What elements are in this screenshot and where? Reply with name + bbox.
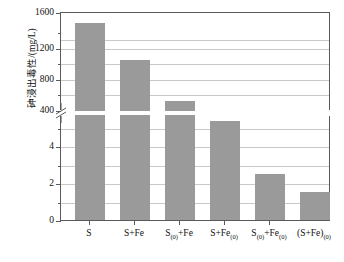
bar-lower-S-Fe0 — [210, 121, 240, 221]
yticklabel-400: 400 — [40, 106, 54, 116]
xlabel-S0-Fe0: S(0)+Fe(0) — [251, 228, 286, 240]
xlabel-S0-Fe0-sub2: (0) — [279, 233, 287, 240]
xlabel-S-Fe0-sub: (0) — [230, 233, 238, 240]
xlabel-S0-Fe0-mid: +Fe — [264, 228, 279, 238]
bar-lower-S — [75, 115, 105, 220]
xlabel-S-Fe-0: (S+Fe)(0) — [297, 228, 331, 240]
bar-lower-S-Fe-0 — [300, 192, 330, 220]
xtick-5 — [269, 221, 270, 225]
yticklabel-1600: 1600 — [35, 8, 54, 18]
yticklabel-800: 800 — [40, 75, 54, 85]
chart-figure: 砷浸出毒性/(mg/L) 1600 1200 800 400 — [0, 0, 344, 262]
ytick-minor-1000 — [58, 64, 61, 65]
yticklabel-0: 0 — [49, 216, 54, 226]
xlabel-S-Fe: S+Fe — [124, 228, 144, 238]
xlabel-S-Fe-0-base: (S+Fe) — [297, 228, 323, 238]
xtick-1 — [89, 221, 90, 225]
ytick-0 — [56, 221, 61, 222]
xtick-4 — [224, 221, 225, 225]
ytick-minor-1 — [58, 203, 61, 204]
plot-panel-lower: 4 2 0 — [60, 116, 330, 221]
ytick-2 — [56, 184, 61, 185]
xtick-3 — [179, 221, 180, 225]
plot-panel-upper: 1600 1200 800 400 — [60, 12, 330, 110]
bar-lower-S0-Fe — [165, 115, 195, 220]
xlabel-S-Fe0-base: S+Fe — [210, 228, 230, 238]
ytick-minor-600 — [58, 95, 61, 96]
xlabel-S0-Fe-sub: (0) — [170, 233, 178, 240]
bar-lower-S0-Fe0 — [255, 174, 285, 220]
y-axis-title: 砷浸出毒性/(mg/L) — [24, 0, 40, 148]
xlabel-S0-Fe-suffix: +Fe — [178, 228, 193, 238]
ytick-800 — [56, 80, 61, 81]
xlabel-S-Fe-0-sub: (0) — [323, 233, 331, 240]
yticklabel-1200: 1200 — [35, 44, 54, 54]
bar-upper-S0-Fe — [165, 101, 195, 111]
bar-upper-S-Fe — [120, 60, 150, 111]
xlabel-S-Fe0: S+Fe(0) — [210, 228, 238, 240]
xlabel-S-base: S — [86, 228, 91, 238]
xlabel-S-Fe-base: S+Fe — [124, 228, 144, 238]
ytick-minor-3 — [58, 166, 61, 167]
xlabel-S0-Fe0-sub: (0) — [257, 233, 265, 240]
bar-upper-S — [75, 23, 105, 111]
xlabel-S0-Fe: S(0)+Fe — [165, 228, 193, 240]
axis-break-icon — [54, 103, 68, 123]
yticklabel-4: 4 — [49, 143, 54, 153]
xtick-2 — [134, 221, 135, 225]
ytick-1200 — [56, 49, 61, 50]
yticklabel-2: 2 — [49, 180, 54, 190]
ytick-1600 — [56, 13, 61, 14]
xlabel-S: S — [86, 228, 91, 238]
ytick-minor-1400 — [58, 33, 61, 34]
bar-lower-S-Fe — [120, 115, 150, 220]
ytick-4 — [56, 147, 61, 148]
ytick-minor-5 — [58, 129, 61, 130]
